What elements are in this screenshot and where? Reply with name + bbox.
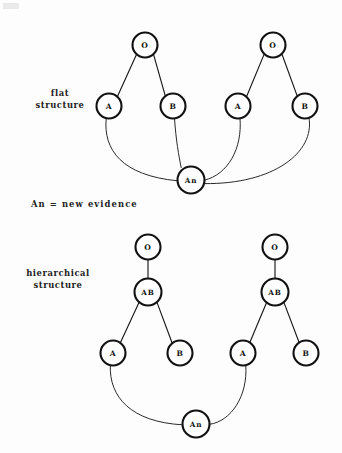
node-flat-left-a[interactable]: A [97, 94, 122, 119]
node-label: An [184, 176, 198, 185]
flat-structure-label-line2: structure [36, 100, 85, 110]
node-label: AB [140, 288, 154, 297]
node-hier-right-b[interactable]: B [294, 341, 319, 366]
node-label: O [269, 41, 276, 50]
node-flat-right-a[interactable]: A [226, 94, 251, 119]
flat-structure-label-line1: flat [51, 88, 69, 98]
node-label: B [176, 349, 183, 358]
node-flat-an[interactable]: An [178, 167, 205, 194]
node-label: A [234, 102, 242, 111]
node-label: A [239, 349, 247, 358]
structure-diagram: flat structure O A [0, 0, 342, 453]
node-flat-left-b[interactable]: B [161, 94, 186, 119]
node-flat-left-o[interactable]: O [133, 33, 158, 58]
node-hier-right-a[interactable]: A [231, 341, 256, 366]
node-label: B [302, 349, 309, 358]
node-label: B [169, 102, 176, 111]
node-label: O [271, 243, 278, 252]
node-hier-right-ab[interactable]: AB [262, 279, 289, 306]
hierarchical-structure-label-line1: hierarchical [26, 268, 90, 278]
node-hier-left-o[interactable]: O [136, 235, 161, 260]
node-label: AB [267, 288, 281, 297]
hierarchical-structure-label-line2: structure [34, 280, 83, 290]
node-hier-right-o[interactable]: O [263, 235, 288, 260]
node-label: An [189, 420, 203, 429]
node-hier-left-a[interactable]: A [101, 341, 126, 366]
node-hier-left-ab[interactable]: AB [135, 279, 162, 306]
node-hier-an[interactable]: An [183, 411, 210, 438]
node-flat-right-b[interactable]: B [293, 94, 318, 119]
node-label: B [301, 102, 308, 111]
diagram-background [0, 0, 342, 453]
node-hier-left-b[interactable]: B [168, 341, 193, 366]
node-label: A [109, 349, 117, 358]
legend-new-evidence: An = new evidence [30, 199, 138, 209]
node-label: O [144, 243, 151, 252]
node-flat-right-o[interactable]: O [261, 33, 286, 58]
node-label: O [141, 41, 148, 50]
corner-artifact [3, 3, 19, 9]
node-label: A [105, 102, 113, 111]
